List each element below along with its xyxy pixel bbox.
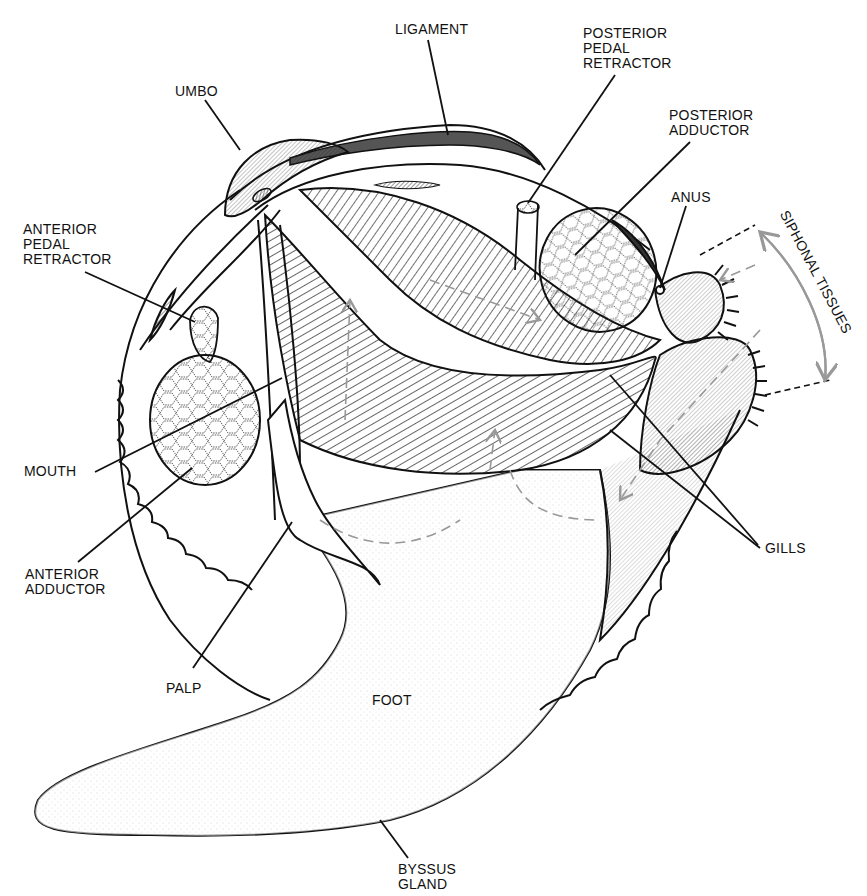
label-foot: FOOT [372,693,412,708]
anterior-adductor-shape [150,355,260,485]
label-anterior-adductor: ANTERIOR ADDUCTOR [25,567,106,597]
label-mouth: MOUTH [24,464,76,479]
label-posterior-pedal-retractor: POSTERIOR PEDAL RETRACTOR [583,26,672,71]
label-anus: ANUS [671,190,711,205]
label-palp: PALP [166,681,202,696]
label-posterior-adductor: POSTERIOR ADDUCTOR [669,108,753,138]
label-umbo: UMBO [175,84,218,99]
label-byssus-gland: BYSSUS GLAND [398,862,456,892]
label-anterior-pedal-retractor: ANTERIOR PEDAL RETRACTOR [23,222,112,267]
label-gills: GILLS [765,541,806,556]
label-ligament: LIGAMENT [395,22,468,37]
mussel-anatomy-diagram: LIGAMENT UMBO POSTERIOR PEDAL RETRACTOR … [0,0,867,896]
anterior-pedal-retractor-shape [190,307,218,362]
